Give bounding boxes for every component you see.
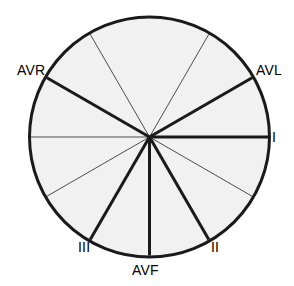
label-lead-iii: III — [78, 240, 90, 254]
hexaxial-diagram: AVR AVL I II III AVF — [0, 0, 294, 286]
label-avf: AVF — [132, 263, 159, 277]
label-lead-i: I — [272, 130, 276, 144]
axis-wheel-graphic — [0, 0, 294, 286]
label-lead-ii: II — [211, 240, 219, 254]
label-avl: AVL — [256, 63, 282, 77]
label-avr: AVR — [17, 63, 45, 77]
